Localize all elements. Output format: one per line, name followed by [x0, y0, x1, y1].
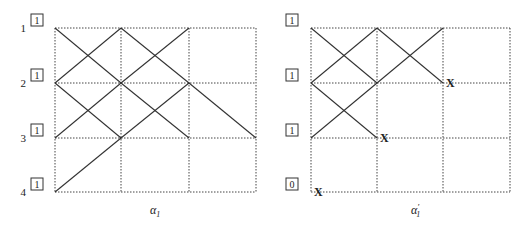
svg-text:0: 0 — [290, 179, 295, 190]
value-box: 1 — [286, 69, 298, 81]
paths — [55, 28, 256, 192]
panel-right: 1110XXXα′1 — [286, 14, 510, 219]
value-box: 1 — [286, 124, 298, 136]
svg-text:1: 1 — [35, 125, 40, 136]
svg-text:1: 1 — [35, 15, 40, 26]
panel-caption: α′1 — [411, 202, 420, 219]
x-mark: X — [380, 131, 389, 145]
value-box: 1 — [31, 124, 43, 136]
value-box: 1 — [31, 14, 43, 26]
value-box: 1 — [31, 69, 43, 81]
row-label: 1 — [21, 22, 27, 34]
path-segment — [189, 83, 256, 138]
panel-caption: α1 — [150, 203, 160, 219]
value-box: 0 — [286, 178, 298, 190]
svg-text:1: 1 — [35, 70, 40, 81]
svg-text:1: 1 — [290, 70, 295, 81]
x-mark: X — [314, 185, 323, 199]
value-box: 1 — [31, 178, 43, 190]
panel-left: 12341111α1 — [21, 14, 257, 219]
svg-text:1: 1 — [35, 179, 40, 190]
row-label: 3 — [21, 132, 27, 144]
x-mark: X — [446, 76, 455, 90]
row-label: 2 — [21, 77, 27, 89]
svg-text:1: 1 — [290, 15, 295, 26]
diagram-canvas: 12341111α11110XXXα′1 — [0, 0, 528, 226]
row-label: 4 — [21, 186, 27, 198]
svg-text:1: 1 — [290, 125, 295, 136]
value-box: 1 — [286, 14, 298, 26]
path-segment — [55, 138, 121, 192]
